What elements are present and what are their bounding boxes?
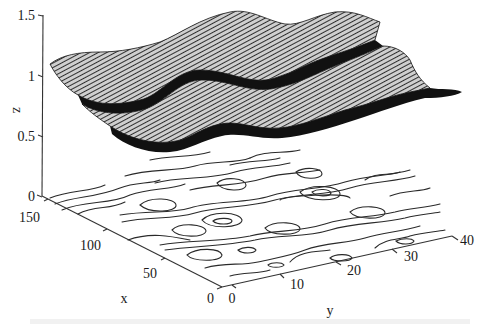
x-axis: 150 100 50 0 x: [19, 196, 222, 306]
z-axis-line: [42, 15, 43, 196]
x-axis-label: x: [121, 291, 128, 306]
z-tick-1: 1: [28, 69, 35, 84]
y-tick-40: 40: [460, 233, 474, 248]
x-tick-150: 150: [19, 210, 40, 225]
contour-projection: [50, 150, 445, 276]
y-tick-0: 0: [229, 291, 236, 306]
y-axis-label: y: [327, 303, 334, 318]
caption-strip: [30, 319, 470, 324]
z-axis-label: z: [10, 107, 25, 113]
y-tick-30: 30: [404, 249, 418, 264]
surface-mesh: [50, 11, 462, 152]
y-tick-20: 20: [347, 263, 361, 278]
y-tick-10: 10: [290, 277, 304, 292]
x-tick-0: 0: [207, 291, 214, 306]
x-tick-50: 50: [143, 266, 157, 281]
z-tick-0: 0: [28, 189, 35, 204]
z-tick-1-5: 1.5: [18, 8, 36, 23]
z-tick-0-5: 0.5: [18, 129, 36, 144]
z-axis: 1.5 1 0.5 0 z: [10, 8, 43, 204]
y-axis: 0 10 20 30 40 y: [222, 233, 474, 318]
x-tick-100: 100: [80, 238, 101, 253]
surface-plot: 1.5 1 0.5 0 z 150 100 50 0 x 0 10 20 30 …: [0, 0, 487, 324]
